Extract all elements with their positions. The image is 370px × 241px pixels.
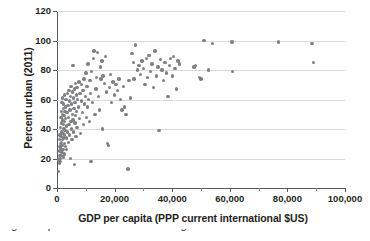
data-point <box>157 129 160 132</box>
data-point <box>126 167 129 170</box>
y-tick-label-100: 100 <box>23 36 51 46</box>
data-point <box>147 54 150 57</box>
data-point <box>74 135 77 138</box>
data-point <box>120 108 123 111</box>
data-point <box>67 123 70 126</box>
x-minor-tick-50000 <box>201 188 202 191</box>
data-point <box>137 64 140 67</box>
scatter-chart-figure: Percent urban (2011) 020406080100120 020… <box>0 0 370 241</box>
data-point <box>230 40 233 43</box>
data-point <box>100 59 103 62</box>
x-minor-tick-10000 <box>86 188 87 191</box>
data-point <box>139 73 142 76</box>
data-point <box>312 61 315 64</box>
data-point <box>95 76 98 79</box>
data-point <box>101 74 104 77</box>
y-tick-mark-80 <box>53 70 57 71</box>
x-tick-mark-20000 <box>115 188 116 192</box>
data-point <box>63 120 66 123</box>
data-point <box>78 117 81 120</box>
data-point <box>117 77 120 80</box>
data-point <box>78 92 81 95</box>
data-point <box>150 62 153 65</box>
data-point <box>132 61 135 64</box>
data-point <box>132 77 135 80</box>
data-point <box>86 105 89 108</box>
data-point <box>99 65 102 68</box>
data-point <box>123 105 126 108</box>
data-point <box>155 74 158 77</box>
data-point <box>129 96 132 99</box>
data-point <box>146 76 149 79</box>
x-tick-label-0: 0 <box>54 194 59 204</box>
data-point <box>153 49 156 52</box>
x-tick-mark-60000 <box>230 188 231 192</box>
data-point <box>71 64 74 67</box>
data-point <box>96 51 99 54</box>
data-point <box>116 89 119 92</box>
gridline-y-100 <box>57 41 345 42</box>
data-point <box>211 42 214 45</box>
x-axis-title: GDP per capita (PPP current internationa… <box>28 212 358 224</box>
data-point <box>79 132 82 135</box>
data-point <box>72 96 75 99</box>
data-point <box>87 98 90 101</box>
data-point <box>76 98 79 101</box>
data-point <box>73 121 76 124</box>
data-point <box>89 160 92 163</box>
data-point <box>70 138 73 141</box>
y-tick-label-60: 60 <box>23 95 51 105</box>
gridline-y-120 <box>57 11 345 12</box>
plot-area: 020406080100120 020,00040,00060,00080,00… <box>57 11 345 188</box>
data-point <box>80 83 83 86</box>
data-point <box>73 101 76 104</box>
data-point <box>67 116 70 119</box>
data-point <box>168 64 171 67</box>
data-point <box>81 89 84 92</box>
data-point <box>156 65 159 68</box>
data-point <box>98 108 101 111</box>
caption-sliver: Figure caption continues below the figur… <box>2 229 302 240</box>
data-point <box>160 68 163 71</box>
data-point <box>143 83 146 86</box>
data-point <box>75 86 78 89</box>
x-tick-label-40000: 40,000 <box>158 194 187 204</box>
data-point <box>107 144 110 147</box>
y-tick-label-120: 120 <box>23 6 51 16</box>
data-point <box>65 136 68 139</box>
data-point <box>127 79 130 82</box>
gridline-y-60 <box>57 100 345 101</box>
data-point <box>75 110 78 113</box>
data-point <box>91 101 94 104</box>
data-point <box>67 89 70 92</box>
data-point <box>105 90 108 93</box>
data-point <box>140 59 143 62</box>
data-point <box>124 113 127 116</box>
data-point <box>81 111 84 114</box>
x-tick-label-80000: 80,000 <box>273 194 302 204</box>
data-point <box>199 77 202 80</box>
data-point <box>90 70 93 73</box>
data-point <box>72 130 75 133</box>
data-point <box>159 58 162 61</box>
data-point <box>75 126 78 129</box>
data-point <box>101 127 104 130</box>
data-point <box>68 133 71 136</box>
data-point <box>82 123 85 126</box>
data-point <box>93 113 96 116</box>
data-point <box>172 55 175 58</box>
data-point <box>108 86 111 89</box>
gridline-y-20 <box>57 159 345 160</box>
data-point <box>109 73 112 76</box>
data-point <box>99 77 102 80</box>
data-point <box>57 170 60 173</box>
data-point <box>178 62 181 65</box>
data-point <box>165 71 168 74</box>
y-tick-label-40: 40 <box>23 124 51 134</box>
x-tick-mark-100000 <box>345 188 346 192</box>
caption-sliver-text: Figure caption continues below the figur… <box>2 229 302 231</box>
data-point <box>202 39 205 42</box>
data-point <box>136 68 139 71</box>
y-tick-mark-100 <box>53 41 57 42</box>
y-tick-label-0: 0 <box>23 183 51 193</box>
